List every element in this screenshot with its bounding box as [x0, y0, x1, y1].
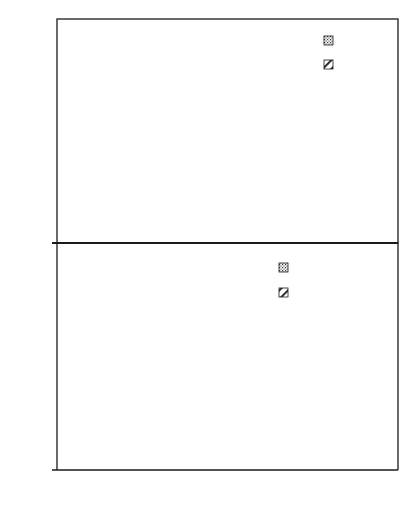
- top-plot-frame: [57, 19, 398, 243]
- bottom-legend: [279, 263, 288, 297]
- figure: [0, 0, 414, 521]
- legend-swatch-stipple: [279, 263, 288, 272]
- top-panel: [57, 19, 398, 243]
- legend-swatch-hatch: [279, 288, 288, 297]
- legend-swatch-stipple: [324, 36, 333, 45]
- bottom-panel: [52, 243, 398, 470]
- top-legend: [324, 36, 333, 69]
- legend-swatch-hatch: [324, 60, 333, 69]
